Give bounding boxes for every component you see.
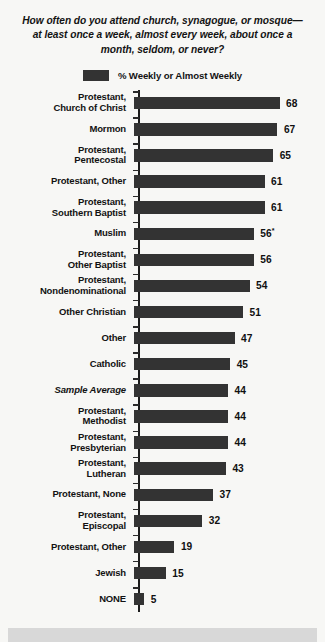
chart-card: How often do you attend church, synagogu… [0,0,325,642]
bar-category-label: Protestant, Pentecostal [0,145,132,167]
footnote-marker: * [272,227,275,234]
bar-category-label: Sample Average [0,385,132,396]
bar-row: Protestant, Other61 [0,169,325,195]
bar-row: Mormon67 [0,116,325,142]
bar-row: Protestant, Southern Baptist61 [0,195,325,221]
bar-row: Other Christian51 [0,299,325,325]
bar-row: Protestant, Other Baptist56 [0,247,325,273]
bar-track: 54 [132,273,325,299]
bar [134,332,235,344]
footer-band [8,628,317,642]
bar-track: 44 [132,377,325,403]
bar-value-label: 44 [235,437,246,448]
bar-category-label: Muslim [0,228,132,239]
bar-value-label: 61 [271,176,282,187]
bar [134,541,175,553]
bar-track: 44 [132,430,325,456]
bar-category-label: Catholic [0,359,132,370]
bar-track: 61 [132,195,325,221]
bar-category-label: Protestant, None [0,489,132,500]
bar-value-label: 56 [260,254,271,265]
bar [134,97,280,109]
bar-row: Sample Average44 [0,377,325,403]
bar [134,228,254,240]
bar [134,149,274,161]
legend-swatch-icon [83,70,109,81]
bar-value-label: 47 [241,333,252,344]
bar-category-label: Other Christian [0,307,132,318]
bar [134,593,145,605]
bar-row: Jewish15 [0,560,325,586]
bar-category-label: Protestant, Other Baptist [0,249,132,271]
bar-track: 56* [132,221,325,247]
bar-category-label: Protestant, Other [0,542,132,553]
bar [134,489,213,501]
bar-category-label: Protestant, Church of Christ [0,92,132,114]
bar-row: Protestant, Lutheran43 [0,456,325,482]
bar [134,436,228,448]
bar-value-label: 56* [260,228,274,239]
bar-track: 5 [132,586,325,612]
bar-value-label: 37 [220,489,231,500]
bar-chart-plot: Protestant, Church of Christ68Mormon67Pr… [0,90,325,642]
bar-value-label: 67 [284,124,295,135]
bar-value-label: 45 [237,359,248,370]
bar [134,123,278,135]
bar [134,384,228,396]
bar-track: 47 [132,325,325,351]
bar-value-label: 65 [280,150,291,161]
bar-row: Protestant, Episcopal32 [0,508,325,534]
bar-row: Catholic45 [0,351,325,377]
bar-track: 65 [132,142,325,168]
bar-track: 15 [132,560,325,586]
bar [134,410,228,422]
bar-track: 51 [132,299,325,325]
bar-row: Muslim56* [0,221,325,247]
chart-title: How often do you attend church, synagogu… [18,14,307,57]
bar-category-label: Jewish [0,568,132,579]
chart-legend: % Weekly or Almost Weekly [0,70,325,81]
bar-row: Protestant, Presbyterian44 [0,430,325,456]
bar-row: Other47 [0,325,325,351]
bar [134,515,203,527]
bar-value-label: 61 [271,202,282,213]
bar [134,175,265,187]
bar-row: Protestant, Pentecostal65 [0,142,325,168]
legend-label: % Weekly or Almost Weekly [118,70,242,81]
bar [134,462,226,474]
bar-track: 67 [132,116,325,142]
bar-row: Protestant, Other19 [0,534,325,560]
bar-track: 61 [132,169,325,195]
bar-track: 44 [132,403,325,429]
bar-value-label: 68 [286,98,297,109]
bar [134,358,231,370]
bar-value-label: 5 [151,594,157,605]
bar-category-label: NONE [0,594,132,605]
bar-track: 19 [132,534,325,560]
bar-track: 56 [132,247,325,273]
bar-row: NONE5 [0,586,325,612]
bar-row: Protestant, Methodist44 [0,403,325,429]
bar [134,254,254,266]
bar [134,280,250,292]
bar-category-label: Protestant, Methodist [0,406,132,428]
bar-category-label: Mormon [0,124,132,135]
bar-track: 45 [132,351,325,377]
bar-track: 43 [132,456,325,482]
bar-track: 37 [132,482,325,508]
bar-value-label: 32 [209,515,220,526]
bar-row: Protestant, Nondenominational54 [0,273,325,299]
bar-category-label: Protestant, Southern Baptist [0,197,132,219]
bar-value-label: 51 [250,307,261,318]
bar-category-label: Protestant, Nondenominational [0,275,132,297]
bar [134,201,265,213]
bar-value-label: 19 [181,541,192,552]
bar-value-label: 44 [235,411,246,422]
bar-value-label: 15 [172,568,183,579]
bar-row: Protestant, Church of Christ68 [0,90,325,116]
bar-value-label: 44 [235,385,246,396]
bar-category-label: Protestant, Lutheran [0,458,132,480]
bar-value-label: 54 [256,280,267,291]
bar-category-label: Other [0,333,132,344]
bar-value-label: 43 [232,463,243,474]
